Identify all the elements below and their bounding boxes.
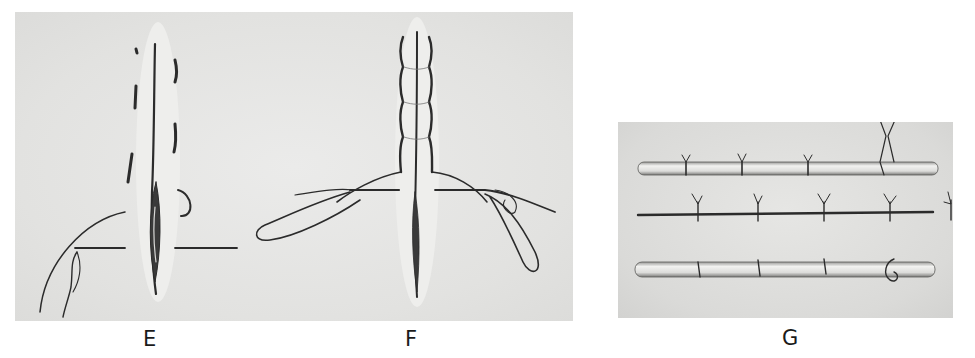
stitch-e-right xyxy=(174,124,176,152)
tie-being-tied xyxy=(888,122,895,162)
tie-ends xyxy=(738,154,746,162)
suture-illustration-ef xyxy=(15,12,573,321)
panel-label-f: F xyxy=(405,329,417,350)
thread-tail-e xyxy=(63,252,77,317)
suture-illustration-g xyxy=(618,122,953,318)
stitch-e-left xyxy=(128,154,132,182)
thread-loop-left-f xyxy=(257,192,360,240)
panel-label-g: G xyxy=(782,328,798,349)
figure-panel-g xyxy=(618,122,953,318)
thread-left-f xyxy=(337,172,401,202)
rod-bottom xyxy=(635,259,935,281)
tie-ends xyxy=(692,194,702,204)
thread-curve-e xyxy=(40,212,125,312)
figure-panel-ef xyxy=(15,12,573,321)
rod-body xyxy=(635,262,935,277)
rod-middle xyxy=(638,192,951,221)
rod-body xyxy=(638,162,938,175)
stitch-e-left xyxy=(135,86,136,108)
stitch-e-left xyxy=(136,49,137,53)
panel-e-drawing xyxy=(40,22,237,317)
thread-right-f xyxy=(432,172,487,202)
thread-loop-e xyxy=(178,190,190,216)
tie-ends xyxy=(682,155,690,162)
panel-label-e: E xyxy=(143,329,156,350)
rod-body xyxy=(638,212,933,215)
stitch-e-right xyxy=(175,60,177,82)
tie-ends xyxy=(804,155,812,162)
thread-right-f xyxy=(435,190,555,212)
panel-f-drawing xyxy=(257,17,555,307)
rod-top xyxy=(638,122,938,175)
thread-loop-right-f xyxy=(485,194,538,271)
tie-ends xyxy=(944,192,951,204)
